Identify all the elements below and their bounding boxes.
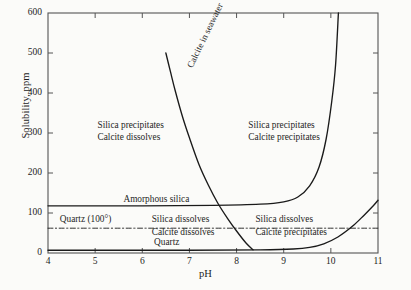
x-tick-label: 8 — [227, 256, 247, 266]
annotation-line: Silica dissolves — [255, 213, 327, 225]
annotation-top-left-block: Silica precipitatesCalcite dissolves — [98, 119, 164, 144]
y-tick-label: 200 — [12, 167, 42, 177]
y-tick-label: 300 — [12, 127, 42, 137]
annotation-amorphous-silica-label: Amorphous silica — [123, 193, 189, 205]
y-tick-label: 0 — [12, 247, 42, 257]
annotation-mid-left-block: Silica dissolvesCalcite dissolves — [152, 213, 215, 238]
curve-amorphous-silica — [48, 13, 338, 206]
annotation-mid-right-block: Silica dissolvesCalcite precipitates — [255, 213, 327, 238]
annotation-quartz-100-label: Quartz (100°) — [60, 213, 111, 225]
annotation-line: Silica precipitates — [248, 119, 320, 131]
y-tick-label: 600 — [12, 7, 42, 17]
x-axis-title: pH — [0, 268, 411, 279]
x-tick-label: 4 — [38, 256, 58, 266]
x-tick-label: 6 — [132, 256, 152, 266]
annotation-line: Amorphous silica — [123, 193, 189, 205]
x-tick-label: 11 — [368, 256, 388, 266]
y-axis-title: Solubility, ppm — [20, 58, 31, 154]
annotation-line: Calcite precipitates — [255, 226, 327, 238]
annotation-line: Silica precipitates — [98, 119, 164, 131]
x-tick-label: 10 — [321, 256, 341, 266]
y-tick-label: 500 — [12, 47, 42, 57]
annotation-line: Quartz (100°) — [60, 213, 111, 225]
annotation-top-right-block: Silica precipitatesCalcite precipitates — [248, 119, 320, 144]
x-tick-label: 9 — [274, 256, 294, 266]
annotation-line: Silica dissolves — [152, 213, 215, 225]
annotation-line: Calcite dissolves — [98, 131, 164, 143]
x-tick-label: 7 — [179, 256, 199, 266]
y-tick-label: 100 — [12, 207, 42, 217]
x-tick-label: 5 — [85, 256, 105, 266]
y-tick-label: 400 — [12, 87, 42, 97]
annotation-line: Calcite dissolves — [152, 226, 215, 238]
annotation-line: Calcite precipitates — [248, 131, 320, 143]
figure-container: Solubility, ppm pH 456789101101002003004… — [0, 0, 411, 290]
